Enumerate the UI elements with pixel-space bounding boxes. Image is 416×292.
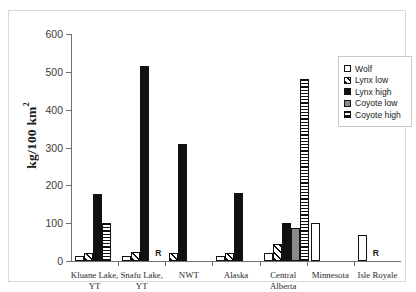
y-axis-tick: [66, 261, 71, 262]
y-axis-tick-label: 0: [57, 255, 63, 267]
x-axis-tick: [354, 261, 355, 266]
x-axis-tick: [118, 261, 119, 266]
bar-wolf: [216, 256, 225, 261]
bar-group: [264, 79, 309, 261]
y-axis-line: [71, 34, 72, 261]
y-axis-tick-label: 400: [45, 104, 63, 116]
legend-item: Wolf: [344, 64, 407, 74]
bar-lynx-low: [131, 252, 140, 261]
y-axis-title: kg/100 km2: [17, 55, 43, 215]
annotation-r: R: [373, 248, 379, 258]
bar-lynx-high: [93, 194, 102, 261]
y-axis-tick-label: 500: [45, 66, 63, 78]
bar-lynx-high: [234, 193, 243, 261]
bar-group: [75, 194, 111, 261]
y-axis-tick: [66, 110, 71, 111]
bar-lynx-low: [225, 253, 234, 261]
y-axis-tick: [66, 34, 71, 35]
y-axis-tick: [66, 72, 71, 73]
legend-label-coyote-high: Coyote high: [355, 110, 401, 120]
bar-lynx-high: [178, 144, 187, 261]
y-axis-tick: [66, 185, 71, 186]
bar-coyote-high: [300, 79, 309, 261]
bar-group: [358, 235, 367, 261]
legend-item: Lynx high: [344, 87, 407, 97]
bar-group: [122, 66, 149, 261]
bar-coyote-low: [291, 228, 300, 261]
bar-lynx-high: [282, 223, 291, 261]
legend-swatch-wolf-icon: [344, 65, 351, 72]
legend-label-lynx-high: Lynx high: [355, 87, 391, 97]
y-axis-tick: [66, 223, 71, 224]
legend-item: Lynx low: [344, 75, 407, 85]
bar-wolf: [311, 223, 320, 261]
bar-wolf: [264, 253, 273, 261]
bar-group: [169, 144, 187, 261]
bar-wolf: [75, 256, 84, 261]
x-axis-tick: [260, 261, 261, 266]
x-axis-label: Isle Royale: [342, 270, 412, 281]
y-axis-title-text: kg/100 km: [23, 106, 38, 168]
y-axis-tick-label: 300: [45, 142, 63, 154]
y-axis-tick-label: 200: [45, 179, 63, 191]
chart-frame: kg/100 km2 0100200300400500600 RR Kluane…: [8, 10, 406, 282]
bar-lynx-low: [169, 253, 178, 261]
legend-item: Coyote low: [344, 98, 407, 108]
chart-legend: Wolf Lynx low Lynx high Coyote low Coyot…: [338, 56, 412, 127]
y-axis-tick-label: 100: [45, 217, 63, 229]
legend-item: Coyote high: [344, 110, 407, 120]
legend-label-wolf: Wolf: [355, 64, 372, 74]
y-axis-title-exponent: 2: [21, 102, 31, 106]
bar-group: [311, 223, 320, 261]
x-axis-tick: [212, 261, 213, 266]
x-axis-tick: [307, 261, 308, 266]
y-axis-tick: [66, 148, 71, 149]
legend-swatch-coyote-high-icon: [344, 111, 351, 118]
legend-swatch-lynx-low-icon: [344, 77, 351, 84]
x-axis-tick: [165, 261, 166, 266]
legend-label-coyote-low: Coyote low: [355, 98, 398, 108]
bar-coyote-high: [102, 223, 111, 261]
legend-label-lynx-low: Lynx low: [355, 75, 388, 85]
legend-swatch-coyote-low-icon: [344, 100, 351, 107]
bar-lynx-low: [84, 253, 93, 261]
legend-swatch-lynx-high-icon: [344, 88, 351, 95]
annotation-r: R: [155, 248, 161, 258]
bar-wolf: [358, 235, 367, 261]
bar-lynx-low: [273, 244, 282, 261]
bar-group: [216, 193, 243, 261]
bar-wolf: [122, 256, 131, 261]
x-axis-line: [71, 261, 401, 262]
bar-lynx-high: [140, 66, 149, 261]
y-axis-tick-label: 600: [45, 28, 63, 40]
